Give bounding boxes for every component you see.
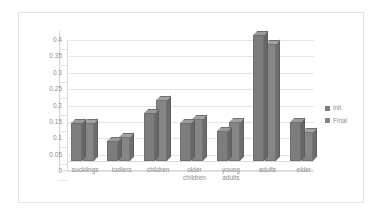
bar-side-face bbox=[191, 118, 195, 161]
x-axis-category-label: sucklings bbox=[72, 166, 99, 174]
bar-group: children bbox=[140, 30, 176, 161]
bar-init-young-adults bbox=[217, 131, 228, 161]
y-axis-tick-label: 0.4 bbox=[53, 37, 62, 44]
x-axis-category-label-line: children bbox=[183, 174, 206, 182]
bar-side-face bbox=[228, 126, 232, 161]
x-axis-category-label: adults bbox=[259, 166, 276, 174]
bar-front-face bbox=[217, 131, 228, 161]
x-axis-category-label: olderchildren bbox=[183, 166, 206, 181]
chart-legend: initFinal bbox=[325, 105, 347, 130]
bar-init-todlers bbox=[107, 141, 118, 161]
y-axis-tick-label: 0.05 bbox=[49, 152, 62, 159]
bar-init-sucklings bbox=[71, 123, 82, 161]
bar-side-face bbox=[94, 118, 98, 161]
bar-side-face bbox=[313, 128, 317, 161]
bar-init-older-children bbox=[180, 123, 191, 161]
bar-side-face bbox=[276, 39, 280, 161]
bar-init-elder bbox=[290, 122, 301, 161]
bar-front-face bbox=[290, 122, 301, 161]
x-axis-category-label-line: sucklings bbox=[72, 166, 99, 174]
x-axis-category-label: youngadults bbox=[222, 166, 240, 181]
bar-side-face bbox=[240, 118, 244, 161]
bar-groups: sucklingstodlerschildrenolderchildrenyou… bbox=[67, 30, 314, 161]
bar-side-face bbox=[301, 118, 305, 161]
bar-front-face bbox=[253, 35, 264, 161]
bar-group: youngadults bbox=[213, 30, 249, 161]
bar-group: elder bbox=[286, 30, 322, 161]
bar-group: todlers bbox=[103, 30, 139, 161]
bar-init-adults bbox=[253, 35, 264, 161]
legend-color-swatch bbox=[325, 118, 330, 123]
y-axis-tick-label: 0.25 bbox=[49, 86, 62, 93]
x-axis-category-label-line: todlers bbox=[112, 166, 132, 174]
bar-init-children bbox=[144, 113, 155, 161]
x-axis-category-label-line: adults bbox=[222, 174, 240, 182]
bar-front-face bbox=[71, 123, 82, 161]
x-axis-category-label-line: young bbox=[222, 166, 240, 174]
legend-label: Final bbox=[333, 118, 347, 125]
bar-side-face bbox=[264, 30, 268, 161]
bar-side-face bbox=[155, 108, 159, 161]
x-axis-category-label: elder bbox=[297, 166, 311, 174]
bar-side-face bbox=[82, 118, 86, 161]
chart-container: 00.050.10.150.20.250.30.350.4 sucklingst… bbox=[18, 12, 364, 203]
bar-group: adults bbox=[249, 30, 285, 161]
plot-area: 00.050.10.150.20.250.30.350.4 sucklingst… bbox=[59, 31, 314, 171]
x-axis-category-label-line: adults bbox=[259, 166, 276, 174]
x-axis-category-label-line: children bbox=[147, 166, 170, 174]
legend-item-init[interactable]: init bbox=[325, 105, 347, 112]
y-axis-tick-label: 0.1 bbox=[53, 135, 62, 142]
legend-item-final[interactable]: Final bbox=[325, 118, 347, 125]
x-axis-category-label: children bbox=[147, 166, 170, 174]
legend-label: init bbox=[333, 105, 341, 112]
bar-group: sucklings bbox=[67, 30, 103, 161]
bar-front-face bbox=[144, 113, 155, 161]
y-axis-tick-label: 0.15 bbox=[49, 119, 62, 126]
y-axis-tick-label: 0.2 bbox=[53, 103, 62, 110]
bar-group: olderchildren bbox=[176, 30, 212, 161]
legend-color-swatch bbox=[325, 106, 330, 111]
y-axis-tick-label: 0.35 bbox=[49, 53, 62, 60]
x-axis-category-label-line: elder bbox=[297, 166, 311, 174]
y-axis-tick-label: 0.3 bbox=[53, 70, 62, 77]
bar-side-face bbox=[203, 115, 207, 161]
bar-front-face bbox=[107, 141, 118, 161]
bar-side-face bbox=[130, 133, 134, 161]
bar-front-face bbox=[180, 123, 191, 161]
x-axis-category-label: todlers bbox=[112, 166, 132, 174]
x-axis-category-label-line: older bbox=[183, 166, 206, 174]
floor-back-edge bbox=[67, 161, 305, 162]
bar-side-face bbox=[167, 96, 171, 161]
